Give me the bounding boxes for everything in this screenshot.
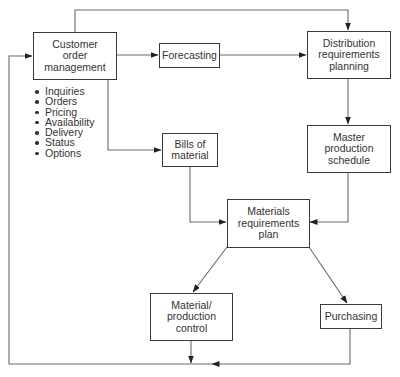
edge-mps-to-mrp (310, 172, 348, 222)
node-purchasing: Purchasing (320, 304, 382, 329)
edge-com-to-drp (75, 10, 348, 32)
node-forecasting: Forecasting (159, 43, 220, 68)
node-material-production-control: Material/ production control (150, 293, 233, 341)
node-customer-order-management: Customer order management (33, 32, 117, 80)
edge-mrp-to-purchasing (309, 247, 347, 303)
edge-bom-to-mrp (190, 166, 226, 222)
node-materials-requirements-plan: Materials requirements plan (227, 199, 310, 248)
node-bills-of-material: Bills of material (162, 133, 218, 167)
list-item: Options (34, 148, 94, 158)
edge-com-to-bom (108, 79, 161, 150)
customer-order-functions-list: Inquiries Orders Pricing Availability De… (34, 86, 94, 158)
node-master-production-schedule: Master production schedule (307, 125, 391, 173)
edge-mrp-to-mpc (193, 247, 227, 292)
node-distribution-requirements-planning: Distribution requirements planning (307, 31, 391, 79)
